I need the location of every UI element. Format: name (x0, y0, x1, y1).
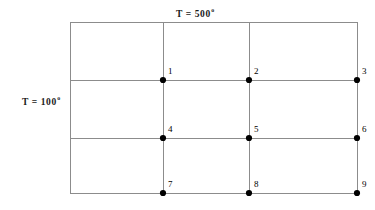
grid-node-label-6: 6 (362, 125, 367, 134)
grid-node-dot-9 (354, 190, 360, 196)
boundary-condition-left-text: T = 100 (22, 97, 57, 107)
grid-node-label-1: 1 (168, 67, 173, 76)
grid-node-label-2: 2 (254, 67, 259, 76)
grid-node-label-4: 4 (168, 125, 173, 134)
grid-nodes-group (160, 77, 360, 196)
grid-node-dot-7 (160, 190, 166, 196)
degree-symbol-left: o (57, 95, 61, 101)
grid-node-label-5: 5 (254, 125, 259, 134)
grid-node-dot-4 (160, 135, 166, 141)
grid-node-label-3: 3 (362, 67, 367, 76)
boundary-condition-label-left: T = 100o (22, 96, 60, 108)
grid-node-dot-8 (246, 190, 252, 196)
boundary-condition-top-text: T = 500 (176, 9, 211, 19)
grid-lines-group (70, 22, 357, 193)
grid-node-dot-1 (160, 77, 166, 83)
grid-node-label-8: 8 (254, 180, 259, 189)
finite-difference-grid-figure: T = 500o T = 100o 123456789 (0, 0, 375, 210)
grid-node-dot-5 (246, 135, 252, 141)
grid-node-dot-6 (354, 135, 360, 141)
grid-node-label-7: 7 (168, 180, 173, 189)
boundary-condition-label-top: T = 500o (176, 8, 214, 20)
grid-node-dot-2 (246, 77, 252, 83)
grid-node-label-9: 9 (362, 180, 367, 189)
degree-symbol-top: o (211, 7, 215, 13)
grid-node-dot-3 (354, 77, 360, 83)
